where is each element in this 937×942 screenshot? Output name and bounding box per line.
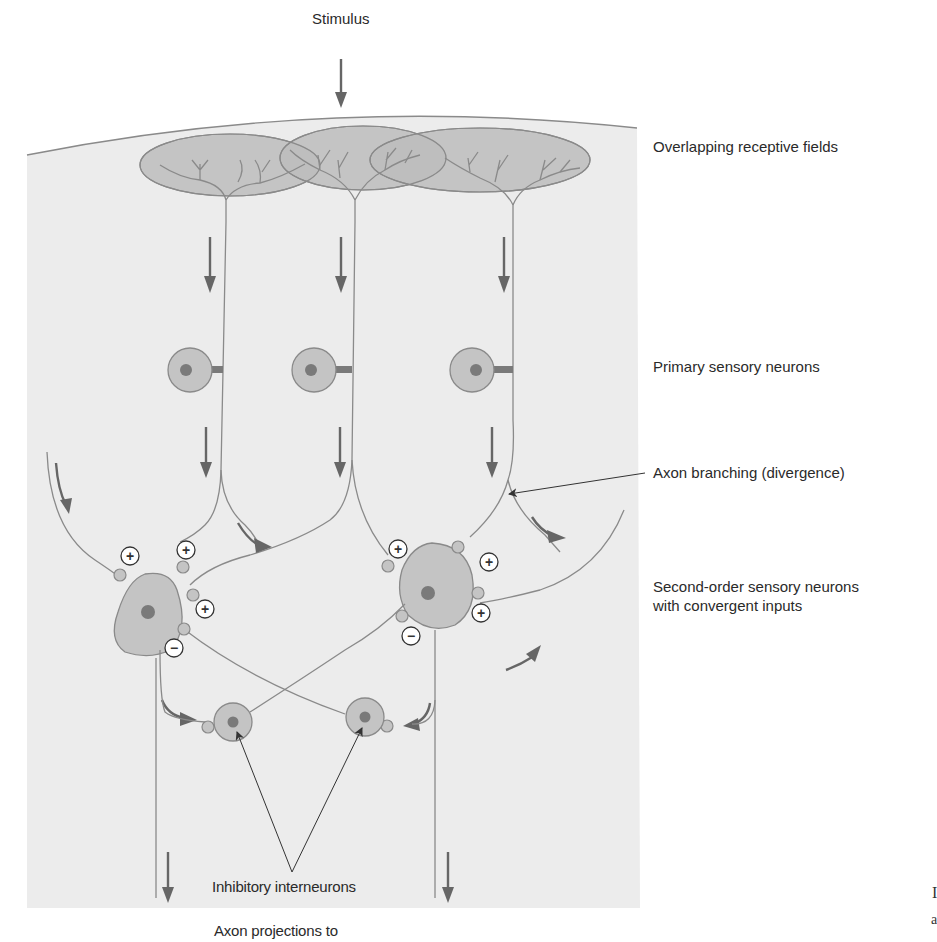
second-order-neuron-right	[400, 543, 474, 628]
plus-sign-icon: +	[472, 604, 490, 622]
tissue-panel	[27, 116, 640, 908]
svg-text:−: −	[170, 640, 178, 656]
svg-text:+: +	[182, 542, 190, 558]
second-order-label-line2: with convergent inputs	[653, 597, 802, 615]
plus-sign-icon: +	[196, 600, 214, 618]
cropped-glyph: I	[932, 884, 937, 902]
stimulus-arrow-icon	[335, 59, 347, 108]
neural-convergence-diagram: + + + − + + + − Stimulus Overlapping rec…	[0, 0, 937, 942]
primary-neurons-label: Primary sensory neurons	[653, 358, 820, 376]
svg-text:+: +	[201, 601, 209, 617]
minus-sign-icon: −	[402, 627, 420, 645]
plus-sign-icon: +	[177, 541, 195, 559]
svg-text:−: −	[407, 628, 415, 644]
plus-sign-icon: +	[121, 547, 139, 565]
second-order-label-line1: Second-order sensory neurons	[653, 578, 859, 596]
axon-projections-label: Axon projections to	[214, 922, 338, 940]
stimulus-label: Stimulus	[312, 10, 370, 28]
cropped-glyph: a	[931, 912, 937, 928]
svg-text:+: +	[477, 605, 485, 621]
svg-text:+: +	[485, 554, 493, 570]
inhibitory-interneurons-label: Inhibitory interneurons	[212, 878, 356, 896]
minus-sign-icon: −	[165, 639, 183, 657]
svg-text:+: +	[126, 548, 134, 564]
svg-text:+: +	[394, 541, 402, 557]
interneuron-right	[346, 698, 384, 736]
receptive-fields-label: Overlapping receptive fields	[653, 138, 838, 156]
interneuron-left	[214, 703, 252, 741]
axon-branching-label: Axon branching (divergence)	[653, 464, 845, 482]
plus-sign-icon: +	[480, 553, 498, 571]
plus-sign-icon: +	[389, 540, 407, 558]
